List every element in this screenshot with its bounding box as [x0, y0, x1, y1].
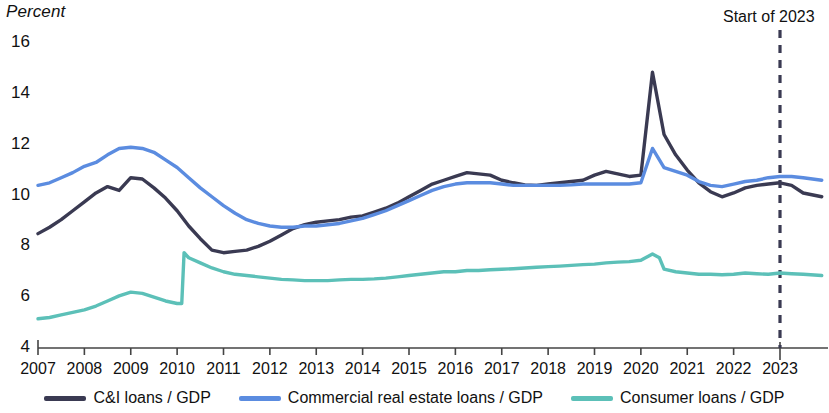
axis-lines	[38, 340, 828, 360]
legend-item-consumer-loans-gdp[interactable]: Consumer loans / GDP	[571, 389, 785, 407]
legend-label: Commercial real estate loans / GDP	[288, 389, 543, 407]
legend-swatch-icon	[44, 396, 86, 401]
series-line-c-i-loans-gdp	[38, 72, 822, 252]
legend-item-commercial-real-estate-loans-gdp[interactable]: Commercial real estate loans / GDP	[239, 389, 543, 407]
series-line-consumer-loans-gdp	[38, 253, 822, 319]
chart-legend: C&I loans / GDPCommercial real estate lo…	[0, 383, 829, 413]
legend-item-c-i-loans-gdp[interactable]: C&I loans / GDP	[44, 389, 210, 407]
plot-area	[0, 0, 829, 413]
legend-label: C&I loans / GDP	[93, 389, 210, 407]
legend-swatch-icon	[239, 396, 281, 401]
chart-container: Percent 16141210864 20072008200920102011…	[0, 0, 829, 413]
legend-label: Consumer loans / GDP	[620, 389, 785, 407]
legend-swatch-icon	[571, 396, 613, 401]
